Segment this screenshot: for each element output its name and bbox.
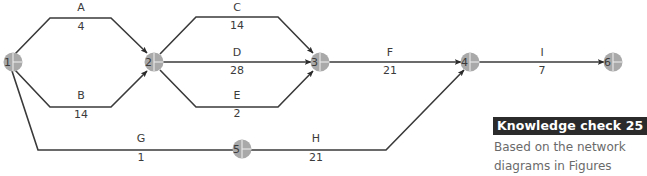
activity-b-name: B — [77, 89, 85, 102]
node-2: 2 — [145, 53, 164, 72]
activity-i-name: I — [540, 46, 543, 59]
activity-g-name: G — [137, 132, 146, 145]
activity-d-duration: 28 — [230, 64, 244, 77]
node-4-label: 4 — [461, 56, 468, 69]
node-2-label: 2 — [145, 56, 152, 69]
activity-h-duration: 21 — [309, 151, 323, 164]
edge-h — [251, 70, 464, 150]
node-1-label: 1 — [4, 56, 11, 69]
activity-h: H 21 — [251, 70, 464, 164]
activity-a-name: A — [77, 1, 85, 14]
activity-a-duration: 4 — [78, 20, 85, 33]
knowledge-check-title: Knowledge check 25 — [493, 117, 647, 135]
node-6-label: 6 — [604, 56, 611, 69]
activity-f: F 21 — [329, 46, 461, 77]
node-1: 1 — [4, 53, 23, 72]
activity-b-duration: 14 — [74, 108, 88, 121]
edge-g — [12, 71, 233, 150]
node-5: 5 — [233, 140, 252, 159]
activity-d: D 28 — [163, 46, 311, 77]
activity-e: E 2 — [160, 70, 313, 120]
activity-h-name: H — [312, 132, 320, 145]
knowledge-check-text: Based on the network diagrams in Figures — [494, 138, 634, 176]
activity-b: B 14 — [15, 70, 147, 121]
activity-f-name: F — [387, 46, 393, 59]
activity-i-duration: 7 — [539, 64, 546, 77]
activity-a: A 4 — [15, 1, 147, 54]
activity-i: I 7 — [479, 46, 604, 77]
node-3: 3 — [311, 53, 330, 72]
node-3-label: 3 — [311, 56, 318, 69]
activity-c-duration: 14 — [230, 19, 244, 32]
activity-g: G 1 — [12, 71, 233, 164]
node-6: 6 — [604, 53, 623, 72]
activity-f-duration: 21 — [383, 64, 397, 77]
node-4: 4 — [461, 53, 480, 72]
node-5-label: 5 — [233, 143, 240, 156]
activity-d-name: D — [233, 46, 241, 59]
activity-e-name: E — [234, 89, 241, 102]
activity-c-name: C — [233, 1, 241, 14]
activity-g-duration: 1 — [138, 151, 145, 164]
activity-e-duration: 2 — [234, 107, 241, 120]
